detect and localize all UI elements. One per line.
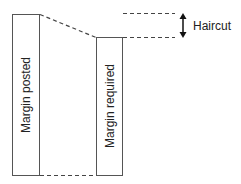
margin-required-label: Margin required xyxy=(103,64,117,148)
margin-haircut-diagram: Margin posted Margin required Haircut xyxy=(0,0,241,184)
haircut-label: Haircut xyxy=(193,19,232,33)
slope-dashed-line xyxy=(40,15,96,38)
margin-posted-label: Margin posted xyxy=(19,57,33,133)
double-arrow-icon xyxy=(180,13,187,38)
